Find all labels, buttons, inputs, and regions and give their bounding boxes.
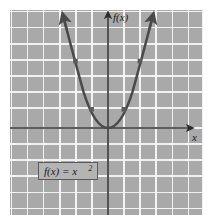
parabola-svg: f(x) x f(x) = x 2 — [0, 0, 212, 222]
point-neg1-1 — [89, 107, 94, 112]
point-2-4 — [138, 59, 143, 64]
graph-figure: f(x) x f(x) = x 2 — [0, 0, 212, 222]
y-axis-label: f(x) — [113, 11, 129, 24]
equation-exponent: 2 — [89, 164, 93, 173]
equation-base: f(x) = x — [44, 165, 77, 178]
equation-box: f(x) = x 2 — [39, 163, 98, 180]
plot-background — [10, 10, 203, 215]
point-neg2-4 — [73, 59, 78, 64]
point-1-1 — [122, 107, 127, 112]
x-axis-label: x — [191, 131, 197, 143]
